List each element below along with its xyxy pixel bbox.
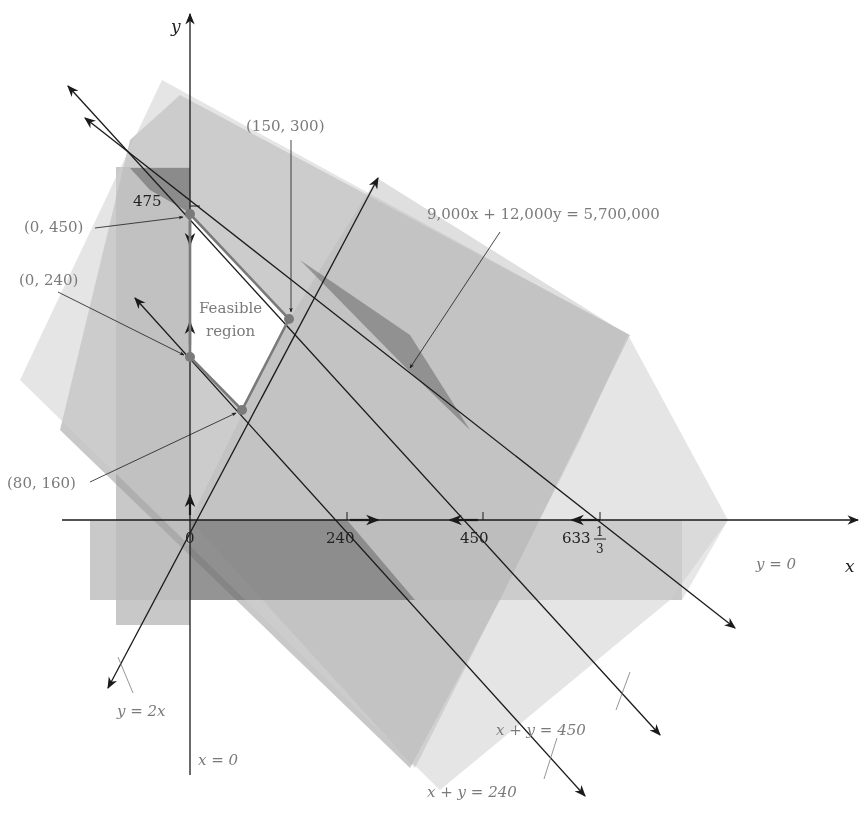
tick-label-450: 450 xyxy=(460,529,489,547)
vertex-150-300 xyxy=(284,314,294,324)
annotation-0-450: (0, 450) xyxy=(24,218,83,236)
tick-label-240: 240 xyxy=(326,529,355,547)
y-axis-label: y xyxy=(170,16,181,36)
tick-label-633: 633 xyxy=(562,529,591,547)
annotation-80-160: (80, 160) xyxy=(7,474,76,492)
eq-label-y-0: y = 0 xyxy=(755,555,797,573)
annotation-150-300: (150, 300) xyxy=(246,117,325,135)
x-axis-label: x xyxy=(845,556,855,576)
objective-label: 9,000x + 12,000y = 5,700,000 xyxy=(427,205,660,223)
eq-label-x-0: x = 0 xyxy=(198,751,239,769)
vertex-80-160 xyxy=(237,405,247,415)
tick-label-633-den: 3 xyxy=(596,542,604,556)
feasible-region-label-2: region xyxy=(206,322,255,340)
vertex-0-450 xyxy=(185,209,195,219)
tick-label-475: 475 xyxy=(133,192,162,210)
vertex-0-240 xyxy=(185,352,195,362)
eq-label-x-plus-y-450: x + y = 450 xyxy=(496,721,586,739)
tick-label-633-num: 1 xyxy=(596,525,604,539)
tick-label-0: 0 xyxy=(185,529,195,547)
eq-label-x-plus-y-240: x + y = 240 xyxy=(427,783,517,801)
lp-graph: y x 0 240 450 633 1 3 475 (150, 300) (0,… xyxy=(0,0,863,815)
eq-label-y-2x: y = 2x xyxy=(116,702,166,720)
feasible-region-label-1: Feasible xyxy=(199,299,262,317)
annotation-0-240: (0, 240) xyxy=(19,271,78,289)
